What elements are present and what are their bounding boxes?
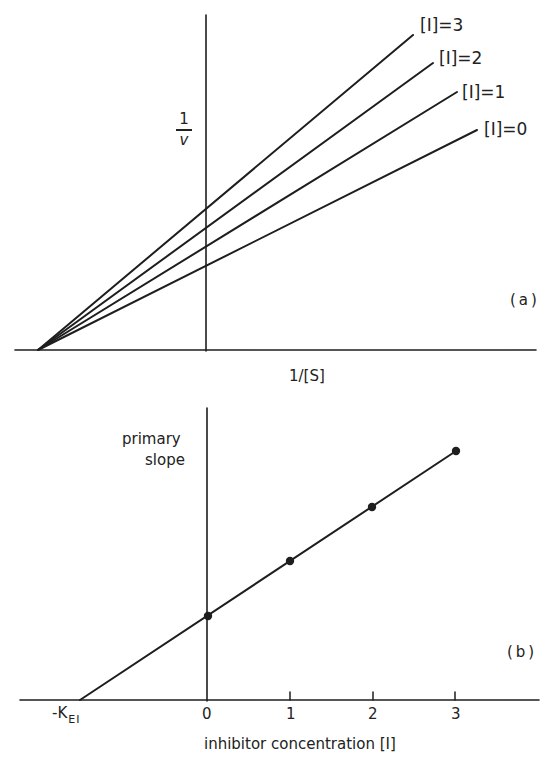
line-i1 — [38, 92, 457, 350]
figure-canvas — [0, 0, 554, 775]
secondary-fit-line — [80, 451, 456, 700]
series-label-i1: [I]=1 — [462, 84, 505, 101]
neg-kei-label: -KEI — [52, 706, 80, 721]
series-label-i0: [I]=0 — [484, 121, 527, 138]
data-point-2 — [368, 503, 376, 511]
data-point-0 — [204, 612, 212, 620]
data-point-1 — [286, 557, 294, 565]
y-label-denominator: v — [180, 131, 189, 149]
neg-k-text: -K — [52, 704, 67, 722]
panel-b-x-label: inhibitor concentration [I] — [204, 737, 396, 752]
tick-label-1: 1 — [286, 707, 296, 722]
panel-a-x-label: 1/[S] — [289, 369, 325, 384]
panel-a-y-label: 1 v — [176, 112, 192, 148]
panel-a-id-label: (a) — [510, 293, 540, 308]
data-point-3 — [452, 447, 460, 455]
series-label-i2: [I]=2 — [439, 50, 482, 67]
series-label-i3: [I]=3 — [420, 17, 463, 34]
line-i3 — [38, 35, 413, 350]
panel-b-y-label-line1: primary — [122, 432, 181, 447]
y-label-numerator: 1 — [179, 110, 189, 128]
tick-label-3: 3 — [451, 707, 461, 722]
panel-b-id-label: (b) — [507, 645, 537, 660]
panel-b-y-label-line2: slope — [145, 453, 185, 468]
line-i0 — [38, 130, 477, 350]
tick-label-2: 2 — [368, 707, 378, 722]
tick-label-0: 0 — [202, 707, 212, 722]
line-i2 — [38, 63, 433, 350]
neg-k-subscript: EI — [68, 713, 80, 726]
